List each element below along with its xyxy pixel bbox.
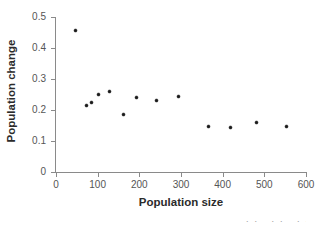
data-point bbox=[74, 29, 77, 32]
x-tick-label: 0 bbox=[41, 180, 71, 190]
x-tick-label: 400 bbox=[208, 180, 238, 190]
data-point bbox=[122, 113, 125, 116]
x-tick bbox=[264, 173, 265, 177]
data-point bbox=[90, 101, 93, 104]
y-tick-label: 0.3 bbox=[22, 74, 46, 84]
y-axis-title-text: Population change bbox=[5, 40, 17, 143]
x-tick bbox=[56, 173, 57, 177]
data-point bbox=[177, 95, 180, 98]
x-tick bbox=[181, 173, 182, 177]
corner-text-fragments: .. .. .. .. bbox=[246, 215, 306, 225]
x-tick-label: 200 bbox=[124, 180, 154, 190]
data-point bbox=[255, 121, 258, 124]
x-tick-label: 100 bbox=[83, 180, 113, 190]
y-tick bbox=[51, 110, 55, 111]
y-tick-label: 0 bbox=[22, 167, 46, 177]
y-tick-label: 0.5 bbox=[22, 12, 46, 22]
plot-area bbox=[56, 17, 306, 172]
y-tick bbox=[51, 48, 55, 49]
data-point bbox=[108, 90, 111, 93]
x-tick-label: 300 bbox=[166, 180, 196, 190]
y-axis-title: Population change bbox=[0, 0, 22, 182]
x-tick bbox=[139, 173, 140, 177]
y-tick bbox=[51, 79, 55, 80]
x-tick-label: 500 bbox=[249, 180, 279, 190]
data-point bbox=[207, 125, 210, 128]
data-point bbox=[135, 96, 138, 99]
data-point bbox=[155, 99, 158, 102]
data-point bbox=[229, 126, 232, 129]
x-axis-title: Population size bbox=[56, 196, 306, 208]
y-tick bbox=[51, 172, 55, 173]
x-tick-label: 600 bbox=[291, 180, 321, 190]
x-tick bbox=[223, 173, 224, 177]
y-tick-label: 0.4 bbox=[22, 43, 46, 53]
x-tick bbox=[98, 173, 99, 177]
y-tick bbox=[51, 17, 55, 18]
y-tick-label: 0.2 bbox=[22, 105, 46, 115]
scatter-chart-figure: Population change 00.10.20.30.40.5 01002… bbox=[0, 0, 327, 226]
y-tick-label: 0.1 bbox=[22, 136, 46, 146]
data-point bbox=[85, 104, 88, 107]
y-tick bbox=[51, 141, 55, 142]
x-tick bbox=[306, 173, 307, 177]
data-point bbox=[97, 93, 100, 96]
data-point bbox=[285, 125, 288, 128]
